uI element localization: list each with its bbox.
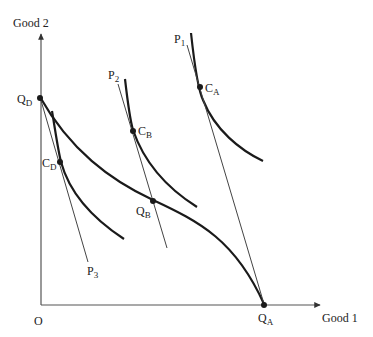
price-line-p3-label: P3 [87, 264, 99, 280]
point-qb-label: QB [136, 204, 151, 220]
price-line-p3 [40, 97, 88, 262]
point-qd-label: QD [17, 92, 33, 108]
x-axis-label: Good 1 [322, 311, 358, 325]
point-qa-label: QA [258, 311, 274, 327]
point-cd [57, 159, 63, 165]
price-line-p2 [118, 84, 167, 248]
price-line-p1-label: P1 [174, 32, 185, 48]
indifference-curve-a [191, 33, 263, 161]
point-qb [150, 198, 156, 204]
point-qd [37, 95, 43, 101]
price-line-p2-label: P2 [108, 68, 119, 84]
origin-label: O [34, 314, 43, 328]
production-consumption-diagram: Good 2 Good 1 O P1 P2 P3 CA CB CD QB [0, 0, 373, 337]
y-axis-label: Good 2 [13, 16, 49, 30]
price-line-p1 [187, 45, 264, 304]
point-cb [130, 128, 136, 134]
point-ca [197, 84, 203, 90]
point-ca-label: CA [205, 81, 220, 97]
point-cb-label: CB [138, 124, 152, 140]
point-cd-label: CD [42, 156, 57, 172]
point-qa [261, 302, 267, 308]
